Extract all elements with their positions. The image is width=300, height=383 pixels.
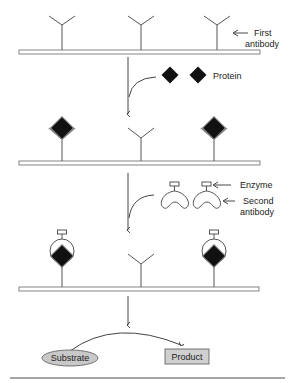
reaction-arrow [70,333,181,351]
stage-3 [19,230,259,291]
second-antibody-label: antibody [240,207,275,217]
solid-surface [19,50,260,54]
first-antibody [128,128,154,161]
stage-2 [19,117,260,165]
second-antibody-label: Second [243,196,274,206]
elisa-diagram: First antibody Protein [0,0,300,383]
first-antibody [49,16,75,50]
antibody-bound-protein [201,117,227,161]
first-antibody-label: antibody [245,39,280,49]
stage-1: First antibody [19,16,280,54]
protein-diamond [162,67,179,84]
first-antibody [128,254,154,287]
substrate-label: Substrate [51,353,90,363]
antibody-bound-protein [49,117,75,161]
pointer-arrow-icon [213,182,231,188]
product-label: Product [171,352,203,362]
first-antibody [204,16,230,50]
sandwich-complex [50,230,74,287]
pointer-arrow-icon [233,30,248,36]
sandwich-complex [202,230,226,287]
first-antibody [128,16,154,50]
first-antibody-label: First [254,28,272,38]
protein-diamond [190,67,207,84]
protein-label: Protein [213,71,242,81]
second-antibody-enzyme [161,182,188,208]
enzyme-label: Enzyme [240,180,273,190]
solid-surface [19,161,260,165]
solid-surface [19,287,259,291]
pointer-arrow-icon [223,198,235,204]
second-antibody-enzyme [193,182,220,208]
step-arrow: Protein [128,57,242,114]
reaction: Substrate Product [42,333,209,366]
step-arrow: Enzyme Second antibody [128,173,275,230]
